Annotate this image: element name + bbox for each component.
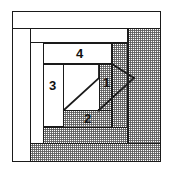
piece-round2-left [12,28,31,162]
quilt-block-diagram: 4 3 2 1 [0,0,172,173]
label-2: 2 [84,112,91,125]
piece-border-right [128,28,161,162]
piece-center-square [63,64,100,111]
label-4: 4 [76,47,83,60]
piece-round2-top [12,11,161,29]
label-3: 3 [49,79,56,92]
piece-border-bottom [30,143,161,162]
piece-round4-top [30,28,128,43]
piece-round3-bottom [43,127,128,144]
piece-round4-left [30,28,44,144]
label-1: 1 [103,76,110,89]
piece-strip-3 [43,64,64,127]
